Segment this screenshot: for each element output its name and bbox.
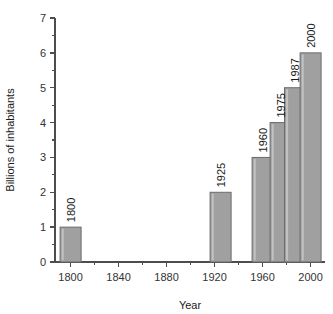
x-tick-label: 1800	[58, 271, 82, 283]
x-tick-label: 1960	[250, 271, 274, 283]
y-tick-label: 1	[40, 221, 46, 233]
y-tick-label: 6	[40, 47, 46, 59]
y-tick-label: 0	[40, 256, 46, 268]
y-tick-label: 5	[40, 82, 46, 94]
bar-highlight	[302, 54, 304, 260]
bar-highlight	[62, 229, 64, 261]
y-tick-label: 7	[40, 12, 46, 24]
bar-highlight	[272, 124, 274, 260]
x-axis-title: Year	[179, 299, 202, 311]
x-tick-label: 1920	[202, 271, 226, 283]
bar-label: 1987	[290, 58, 302, 82]
chart-canvas: 01234567 180018401880192019602000 180019…	[0, 0, 333, 314]
population-bar-chart: 01234567 180018401880192019602000 180019…	[0, 0, 333, 314]
bar-highlight	[212, 194, 214, 261]
y-tick-label: 2	[40, 186, 46, 198]
y-tick-label: 4	[40, 117, 46, 129]
bar-label: 2000	[305, 23, 317, 47]
bar-highlight	[254, 159, 256, 260]
y-tick-label: 3	[40, 151, 46, 163]
bar-label: 1975	[275, 93, 287, 117]
y-axis-title: Billions of inhabitants	[4, 88, 16, 192]
bar-label: 1800	[65, 198, 77, 222]
bar-label: 1960	[257, 128, 269, 152]
bar-label: 1925	[215, 163, 227, 187]
x-tick-label: 2000	[298, 271, 322, 283]
x-tick-label: 1880	[154, 271, 178, 283]
x-tick-label: 1840	[106, 271, 130, 283]
